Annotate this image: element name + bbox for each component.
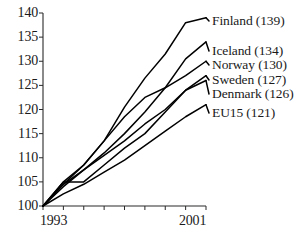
y-tick-label-125: 125 [18,78,38,92]
y-tick-label-110: 110 [18,151,38,165]
leader-line-finland [206,18,209,21]
series-group [43,18,206,206]
leader-line-sweden [206,76,209,80]
series-line-eu15 [43,105,206,206]
x-tick-label-start: 1993 [40,214,67,228]
series-label-denmark: Denmark (126) [212,87,294,101]
y-axis-ticks [39,13,43,206]
y-tick-label-120: 120 [18,103,38,117]
line-chart: 100105110115120125130135140 1993 2001 Fi… [0,0,297,236]
series-label-iceland: Iceland (134) [212,44,283,58]
leader-line-denmark [206,81,209,94]
leader-line-iceland [206,42,209,51]
y-tick-label-100: 100 [18,199,38,213]
series-line-denmark [43,81,206,206]
leader-line-eu15 [206,105,209,113]
x-tick-label-end: 2001 [179,214,206,228]
series-label-norway: Norway (130) [212,58,287,72]
y-tick-label-130: 130 [18,54,38,68]
leader-line-norway [206,61,209,65]
series-label-finland: Finland (139) [212,14,285,28]
y-tick-label-140: 140 [18,6,38,20]
y-tick-label-115: 115 [18,127,38,141]
x-axis-ticks [43,206,206,210]
leader-lines-group [206,18,209,113]
series-label-sweden: Sweden (127) [212,73,286,87]
y-tick-label-135: 135 [18,30,38,44]
series-label-eu15: EU15 (121) [212,106,275,120]
y-tick-label-105: 105 [18,175,38,189]
